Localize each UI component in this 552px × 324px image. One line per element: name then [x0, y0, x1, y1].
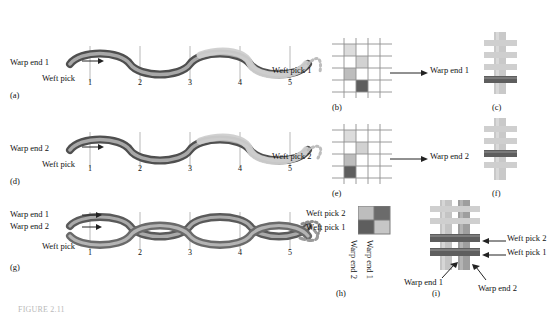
panel-h-weft-pick-2-label: Weft pick 2 [306, 209, 345, 218]
panel-tag-d: (d) [10, 176, 20, 186]
row1-warp-arrow-icon [82, 56, 104, 66]
row3-warp-end-1-label: Warp end 1 [10, 210, 49, 219]
row2-pick-number-4: 4 [238, 164, 242, 173]
row2-weft-pick-label: Weft pick [42, 160, 75, 169]
row3-warp-arrows-icon [82, 210, 102, 234]
row1-warp-end-label: Warp end 1 [10, 58, 49, 67]
panel-tag-i: (i) [432, 288, 440, 298]
panel-f-model [478, 118, 524, 184]
row3-pick-number-3: 3 [188, 248, 192, 257]
panel-e-arrow-icon [390, 154, 428, 164]
panel-a-diagram [50, 38, 350, 118]
row3-pick-number-1: 1 [88, 248, 92, 257]
figure-caption: FIGURE 2.11 [18, 305, 65, 314]
panel-i-warp-end-2-arrow-icon [472, 264, 490, 282]
panel-tag-h: (h) [336, 288, 346, 298]
figure-2-11: Warp end 1 Weft pick 1 2 3 4 5 (a) Weft … [0, 0, 552, 324]
row1-pick-number-1: 1 [88, 78, 92, 87]
panel-tag-a: (a) [10, 90, 19, 100]
row3-warp-end-2-label: Warp end 2 [10, 222, 49, 231]
panel-e-warp-end-label: Warp end 2 [430, 152, 469, 161]
panel-tag-b: (b) [332, 102, 342, 112]
row1-pick-number-2: 2 [138, 78, 142, 87]
row2-pick-number-2: 2 [138, 164, 142, 173]
row1-pick-number-5: 5 [288, 78, 292, 87]
panel-i-warp-end-1-label: Warp end 1 [404, 278, 443, 287]
panel-h-warp-end-1-label: Warp end 1 [365, 240, 374, 279]
row2-warp-arrow-icon [82, 142, 104, 152]
panel-b-warp-end-label: Warp end 1 [430, 66, 469, 75]
row3-pick-number-4: 4 [238, 248, 242, 257]
row2-pick-number-1: 1 [88, 164, 92, 173]
panel-h-weft-pick-1-label: Weft pick 1 [306, 223, 345, 232]
panel-i-weft-pick-1-label: Weft pick 1 [507, 248, 546, 257]
panel-tag-c: (c) [492, 102, 501, 112]
panel-i-warp-end-2-label: Warp end 2 [478, 284, 517, 293]
row1-pick-number-4: 4 [238, 78, 242, 87]
panel-d-diagram [50, 124, 350, 204]
panel-e-grid [332, 124, 396, 186]
panel-b-arrow-icon [390, 68, 428, 78]
row2-pick-number-3: 3 [188, 164, 192, 173]
row2-warp-end-label: Warp end 2 [10, 144, 49, 153]
panel-tag-e: (e) [332, 188, 341, 198]
panel-c-model [478, 32, 524, 98]
panel-tag-g: (g) [10, 262, 20, 272]
row1-weft-pick-label: Weft pick [42, 74, 75, 83]
row3-pick-number-5: 5 [288, 248, 292, 257]
panel-b-grid [332, 38, 396, 100]
row3-pick-number-2: 2 [138, 248, 142, 257]
row2-pick-number-5: 5 [288, 164, 292, 173]
panel-i-weft-pick-2-label: Weft pick 2 [507, 234, 546, 243]
panel-i-weft-pick-1-arrow-icon [482, 250, 506, 260]
panel-e-weft-pick-label: Weft pick 2 [272, 152, 311, 161]
panel-i-weft-pick-2-arrow-icon [482, 236, 506, 246]
panel-b-weft-pick-label: Weft pick 1 [272, 66, 311, 75]
panel-h-grid [358, 206, 398, 238]
panel-tag-f: (f) [492, 188, 501, 198]
panel-h-warp-end-2-label: Warp end 2 [349, 240, 358, 279]
row1-pick-number-3: 3 [188, 78, 192, 87]
row3-weft-pick-label: Weft pick [42, 242, 75, 251]
